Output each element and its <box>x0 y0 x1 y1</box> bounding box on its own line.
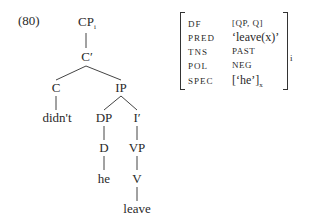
node-v: V <box>132 172 141 185</box>
f-structure: DF [QP, Q] PRED ‘leave(x)’ TNS PAST POL … <box>180 12 288 90</box>
left-bracket <box>180 12 185 90</box>
leaf-he: he <box>98 172 110 185</box>
node-i-bar: I′ <box>133 111 140 124</box>
node-cp: CPi <box>78 15 96 34</box>
f-structure-index: i <box>290 53 293 63</box>
node-dp: DP <box>96 111 113 124</box>
node-d: D <box>99 141 108 154</box>
node-c: C <box>52 81 61 94</box>
right-bracket <box>283 12 288 90</box>
leaf-leave: leave <box>123 202 150 215</box>
leaf-didnt: didn't <box>42 111 71 124</box>
node-c-bar: C′ <box>81 50 93 63</box>
node-vp: VP <box>129 141 146 154</box>
node-ip: IP <box>115 81 127 94</box>
